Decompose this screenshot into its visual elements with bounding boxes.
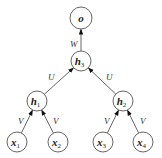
edge-h2-h3: U (89, 68, 116, 94)
edge-x1-h1: V (18, 110, 32, 133)
edge-weight-label: U (106, 72, 113, 82)
edge-h3-o: W (70, 30, 81, 52)
node-h3: h3 (71, 51, 91, 71)
arrow-icon (42, 110, 54, 133)
edges-layer: WUUVVVV (18, 30, 147, 134)
edge-x3-h2: V (104, 110, 118, 133)
edge-weight-label: W (70, 39, 79, 49)
edge-x4-h2: V (128, 110, 147, 133)
node-x1: x1 (7, 132, 27, 152)
node-o: o (70, 7, 92, 29)
node-x2: x2 (48, 132, 68, 152)
edge-weight-label: V (18, 116, 25, 126)
node-h2: h2 (113, 91, 133, 111)
nodes-layer: oh3h1h2x1x2x3x4 (7, 7, 153, 152)
edge-weight-label: V (140, 116, 147, 126)
arrow-icon (128, 110, 139, 133)
node-h1: h1 (27, 91, 47, 111)
node-x3: x3 (93, 132, 113, 152)
edge-x2-h1: V (42, 110, 60, 133)
edge-h1-h3: U (44, 68, 73, 94)
edge-weight-label: U (48, 72, 55, 82)
edge-weight-label: V (104, 116, 111, 126)
node-label: o (78, 12, 84, 24)
diagram-canvas: WUUVVVV oh3h1h2x1x2x3x4 (0, 0, 162, 158)
edge-weight-label: V (53, 116, 60, 126)
node-x4: x4 (133, 132, 153, 152)
rnn-tree-diagram: WUUVVVV oh3h1h2x1x2x3x4 (0, 0, 162, 158)
